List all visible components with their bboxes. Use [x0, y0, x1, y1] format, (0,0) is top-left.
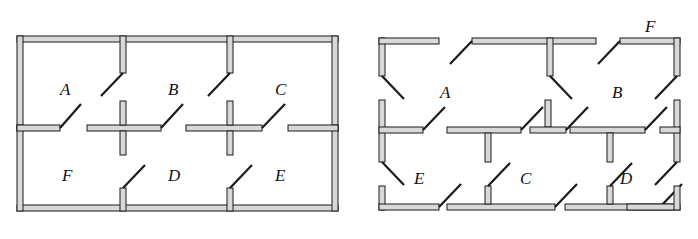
piece-mid-2-vertical	[485, 133, 491, 162]
piece-mid-4-vertical	[607, 133, 613, 162]
wall-middle-segment-1	[17, 125, 60, 131]
wall-middle-segment-3	[186, 125, 262, 131]
piece-bot-4-horizontal	[627, 204, 680, 210]
piece-top-left-horizontal	[379, 38, 439, 44]
piece-mid-4-horizontal	[570, 127, 645, 133]
door-leaf-piece-mid-5-bottom	[655, 162, 677, 185]
room-label-left-f: F	[61, 166, 73, 185]
piece-top-right-horizontal	[620, 38, 680, 44]
piece-mid-5-horizontal	[660, 127, 680, 133]
room-label-left-a: A	[59, 80, 71, 99]
door-leaf-room-a-top	[101, 73, 123, 96]
room-label-left-c: C	[275, 80, 287, 99]
wall-partition-top-left	[120, 36, 126, 73]
door-leaf-piece-mid-1-top	[423, 107, 445, 130]
door-leaf-room-e-middle	[262, 104, 285, 128]
piece-mid-3-vertical	[545, 100, 551, 127]
room-label-left-b: B	[168, 80, 179, 99]
wall-partition-top-right	[227, 36, 233, 73]
door-leaf-piece-top-right-left	[598, 41, 620, 64]
piece-top-middle-horizontal	[472, 38, 596, 44]
wall-partition-bottom-right	[227, 188, 233, 211]
wall-cross-stub-lower-left	[120, 131, 126, 155]
room-label-right-c: C	[520, 169, 532, 188]
door-leaf-piece-top-right-bottom	[655, 76, 677, 99]
wall-cross-stub-lower-right	[227, 131, 233, 155]
wall-middle-segment-4	[288, 125, 338, 131]
wall-right-lower	[332, 125, 338, 211]
door-leaf-piece-bot-2-top	[488, 163, 510, 186]
door-leaf-room-d-bottom	[123, 165, 145, 188]
door-leaf-room-e-bottom	[230, 165, 252, 188]
door-leaf-piece-top-left	[382, 76, 404, 99]
piece-mid-1-horizontal	[379, 127, 423, 133]
door-leaf-room-f-middle	[60, 104, 81, 128]
piece-bot-1-horizontal	[379, 204, 439, 210]
wall-bottom-outer	[17, 205, 338, 211]
door-leaf-piece-top-middle-right	[550, 76, 572, 99]
piece-mid-2-horizontal	[447, 127, 521, 133]
room-label-left-d: D	[167, 166, 181, 185]
room-label-right-d: D	[619, 169, 633, 188]
piece-bot-3-vertical	[607, 186, 613, 204]
floor-plan-figure: A B C F D E F A B E C D	[0, 0, 698, 239]
piece-top-middle-vertical	[547, 38, 553, 76]
room-label-right-a: A	[439, 83, 451, 102]
door-leaf-room-d-middle	[161, 104, 183, 128]
room-label-left-e: E	[274, 166, 286, 185]
door-leaf-room-b-top	[208, 73, 230, 96]
wall-cross-stub-upper-left	[120, 101, 126, 125]
wall-cross-stub-upper-right	[227, 101, 233, 125]
piece-bot-2-horizontal	[447, 204, 555, 210]
piece-bot-4-vertical	[674, 186, 680, 210]
wall-partition-bottom-left	[120, 188, 126, 211]
door-leaf-piece-top-middle-left	[450, 41, 472, 64]
piece-top-right-vertical	[674, 38, 680, 76]
wall-middle-segment-2	[87, 125, 161, 131]
assembled-floor-plan: A B C F D E F A B E C D	[0, 0, 698, 239]
door-leaf-piece-mid-1-bottom	[382, 162, 404, 185]
wall-left-lower	[17, 125, 23, 211]
piece-bot-2-vertical	[485, 186, 491, 204]
piece-mid-3-horizontal	[530, 127, 566, 133]
room-label-right-e: E	[413, 169, 425, 188]
room-label-right-b: B	[612, 83, 623, 102]
wall-top-outer	[17, 36, 338, 42]
room-label-right-f: F	[644, 17, 656, 36]
wall-left-upper	[17, 36, 23, 131]
wall-right-upper	[332, 36, 338, 131]
